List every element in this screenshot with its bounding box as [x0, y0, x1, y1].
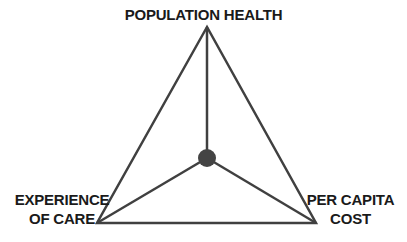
center-dot [198, 149, 216, 167]
label-line: COST [293, 209, 407, 228]
label-line: EXPERIENCE [2, 190, 122, 209]
label-population-health: POPULATION HEALTH [0, 5, 407, 24]
label-line: PER CAPITA [293, 190, 407, 209]
label-per-capita-cost: PER CAPITA COST [293, 190, 407, 228]
label-experience-of-care: EXPERIENCE OF CARE [2, 190, 122, 228]
label-line: OF CARE [2, 209, 122, 228]
